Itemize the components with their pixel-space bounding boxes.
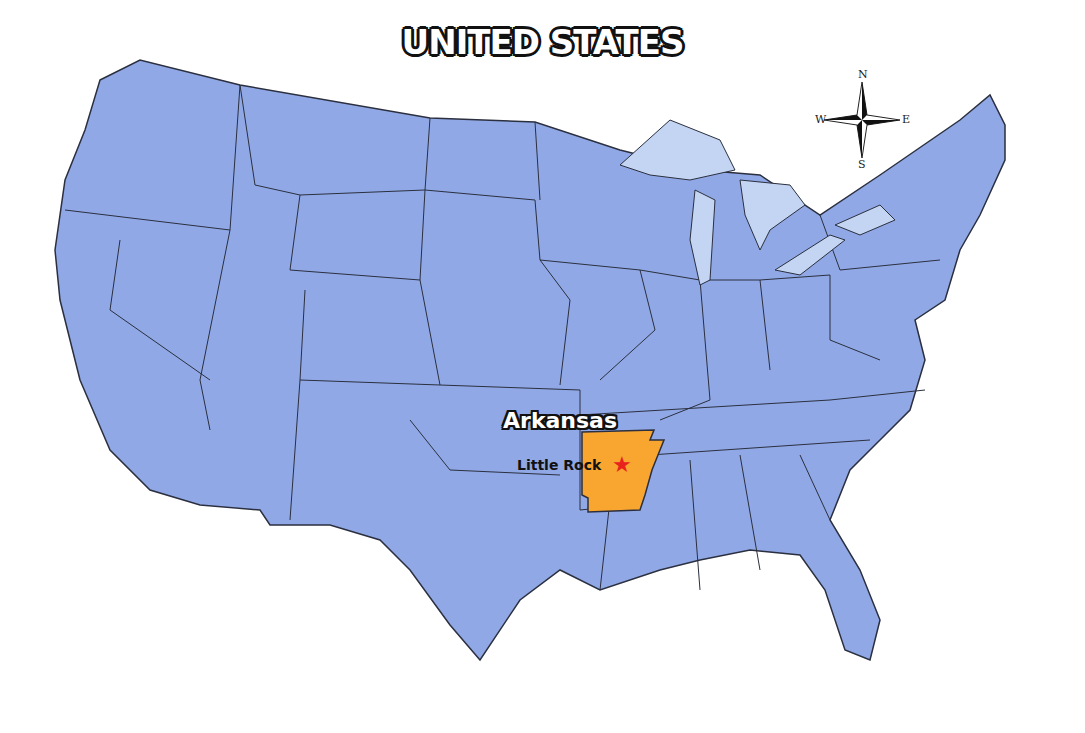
compass-east-label: E xyxy=(902,113,910,126)
compass-south-label: S xyxy=(858,158,866,171)
little-rock-label: Little Rock xyxy=(517,457,601,473)
arkansas-label: Arkansas xyxy=(503,408,617,433)
compass-west-label: W xyxy=(815,113,826,126)
compass-rose-icon xyxy=(824,82,900,158)
capital-star-icon: ★ xyxy=(612,454,632,476)
compass-north-label: N xyxy=(858,68,868,81)
us-map xyxy=(0,0,1085,733)
